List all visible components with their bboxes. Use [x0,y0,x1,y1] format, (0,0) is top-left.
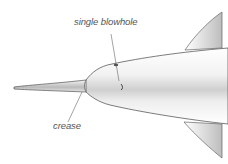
dolphin-beak [14,80,86,92]
dolphin-diagram: single blowhole crease [0,0,228,164]
label-crease: crease [53,120,81,131]
dolphin-body [86,48,228,124]
label-single-blowhole: single blowhole [74,16,137,27]
dorsal-fin [185,12,222,50]
pectoral-fin [184,122,222,158]
crease-leader-line [68,92,82,122]
